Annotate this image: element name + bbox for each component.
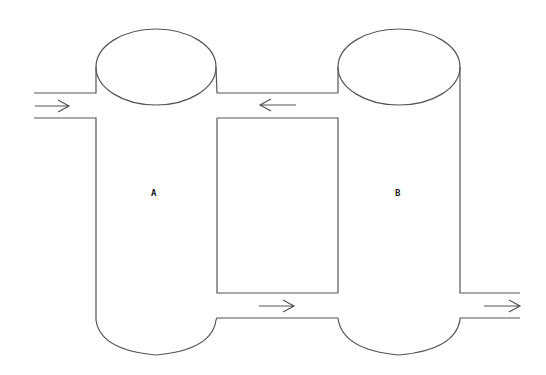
- arrow-inlet-right-icon: [35, 100, 69, 112]
- tank-b-right-wall: [460, 67, 520, 293]
- tank-a-left-wall-top: [34, 67, 96, 93]
- tank-a-top-ellipse: [96, 29, 216, 105]
- arrow-top-left-icon: [260, 99, 296, 111]
- arrow-bottom-right-icon: [259, 300, 294, 312]
- tank-a-body-and-bottom: [34, 118, 338, 355]
- tank-a-right-wall-top: [216, 67, 338, 93]
- arrow-outlet-right-icon: [484, 300, 520, 312]
- connector-rectangle-right: [217, 118, 338, 293]
- tank-b-top-ellipse: [338, 29, 460, 105]
- tank-b-bottom: [338, 318, 520, 355]
- connector-rectangle-left: [217, 118, 338, 293]
- tank-a-label: A: [151, 188, 157, 198]
- diagram-canvas: A B: [0, 0, 546, 375]
- tank-b-label: B: [395, 188, 401, 198]
